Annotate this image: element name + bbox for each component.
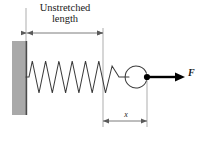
coil-spring xyxy=(26,61,129,93)
wall-fill xyxy=(12,41,27,115)
displacement-label: x xyxy=(115,111,137,120)
fixed-support-wall xyxy=(12,41,27,115)
spring-coil-path xyxy=(26,61,129,93)
displacement-dimension-arrowhead-left xyxy=(103,119,109,124)
unstretched-length-label-line2: length xyxy=(26,13,104,24)
unstretched-dimension-arrowhead-left xyxy=(27,31,33,36)
unstretched-length-label-line1: Unstretched xyxy=(26,2,104,13)
unstretched-length-dimension xyxy=(27,31,103,36)
force-vector-arrow xyxy=(144,73,185,82)
unstretched-dimension-arrowhead-right xyxy=(97,31,103,36)
force-arrow-head xyxy=(175,73,185,82)
force-label: F xyxy=(188,68,195,79)
force-application-point xyxy=(144,74,150,80)
spring-force-diagram: Unstretched length x F xyxy=(0,0,202,141)
displacement-dimension-arrowhead-right xyxy=(141,119,147,124)
unstretched-length-label: Unstretched length xyxy=(26,2,104,25)
